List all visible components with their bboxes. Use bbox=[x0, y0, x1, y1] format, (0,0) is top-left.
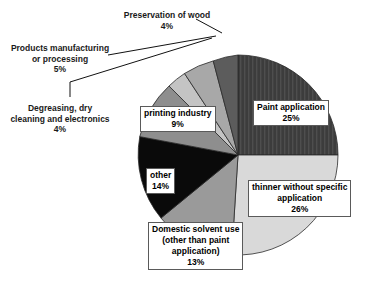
slice-label-thinner-line2: application bbox=[252, 193, 347, 204]
slice-label-paint-application: Paint application 25% bbox=[253, 100, 329, 126]
leader-line-products-manufacturing bbox=[108, 36, 216, 55]
callout-degreasing-line1: Degreasing, dry bbox=[4, 103, 116, 114]
callout-degreasing-line2: cleaning and electronics bbox=[4, 114, 116, 125]
callout-products-manufacturing-line2: or processing bbox=[6, 54, 114, 65]
slice-label-domestic-solvent-line1: Domestic solvent use bbox=[152, 224, 239, 235]
callout-products-manufacturing-line1: Products manufacturing bbox=[6, 43, 114, 54]
slice-label-domestic-solvent-value: 13% bbox=[152, 257, 239, 268]
callout-products-manufacturing-value: 5% bbox=[6, 64, 114, 75]
callout-preservation-of-wood-value: 4% bbox=[117, 21, 217, 32]
slice-label-domestic-solvent-use: Domestic solvent use (other than paint a… bbox=[148, 222, 243, 270]
slice-label-thinner: thinner without specific application 26% bbox=[248, 180, 351, 217]
slice-label-printing-industry-name: printing industry bbox=[144, 108, 212, 119]
callout-degreasing-value: 4% bbox=[4, 124, 116, 135]
callout-label-degreasing: Degreasing, dry cleaning and electronics… bbox=[4, 103, 116, 135]
slice-label-domestic-solvent-line2: (other than paint bbox=[152, 235, 239, 246]
callout-label-products-manufacturing: Products manufacturing or processing 5% bbox=[6, 43, 114, 75]
slice-label-paint-application-value: 25% bbox=[257, 113, 325, 124]
slice-label-paint-application-name: Paint application bbox=[257, 102, 325, 113]
pie-chart-figure: Preservation of wood 4% Products manufac… bbox=[0, 0, 371, 294]
slice-label-domestic-solvent-line3: application) bbox=[152, 246, 239, 257]
slice-label-thinner-value: 26% bbox=[252, 204, 347, 215]
slice-label-other: other 14% bbox=[146, 168, 175, 194]
slice-label-printing-industry: printing industry 9% bbox=[140, 106, 216, 132]
callout-preservation-of-wood-line1: Preservation of wood bbox=[117, 10, 217, 21]
callout-label-preservation-of-wood: Preservation of wood 4% bbox=[117, 10, 217, 31]
slice-label-printing-industry-value: 9% bbox=[144, 119, 212, 130]
slice-label-other-name: other bbox=[150, 170, 171, 181]
slice-label-other-value: 14% bbox=[150, 181, 171, 192]
slice-label-thinner-line1: thinner without specific bbox=[252, 182, 347, 193]
